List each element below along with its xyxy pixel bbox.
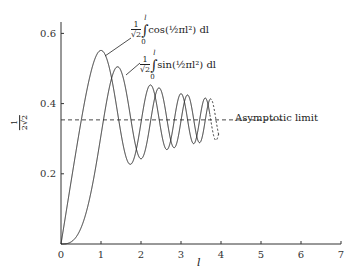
y-ticks: 0.20.40.6: [40, 28, 64, 179]
cos-label-num: 1: [131, 20, 141, 30]
sin-label-num: 1: [140, 55, 150, 65]
cos-label-den: √2: [131, 30, 141, 39]
y-tick-label: 0.2: [40, 168, 56, 179]
sin-integral-curve-extension: [210, 99, 219, 136]
asymptote-label: Asymptotic limit: [235, 112, 318, 123]
y-tick-label: 0.6: [40, 28, 56, 39]
chart-canvas: 01234567 0.20.40.6: [0, 0, 364, 275]
cos-upper-limit: l: [144, 14, 146, 22]
x-axis-label: l: [197, 256, 201, 269]
y-tick-label: 0.4: [40, 98, 56, 109]
integral-sign: ∫l0: [150, 57, 157, 73]
y-label-num: 1: [10, 115, 20, 130]
sin-lower-limit: 0: [150, 73, 154, 81]
cos-label-fraction: 1√2: [131, 20, 141, 39]
sin-curve-label: 1√2∫l0sin(½πl²) dl: [140, 55, 216, 74]
x-tick-label: 7: [338, 249, 344, 260]
sin-label-den: √2: [140, 65, 150, 74]
integral-sign: ∫l0: [141, 22, 148, 38]
sin-label-body: sin(½πl²) dl: [157, 59, 216, 70]
y-label-den: 2√2: [20, 115, 29, 130]
x-tick-label: 4: [218, 249, 224, 260]
x-tick-label: 2: [138, 249, 144, 260]
cos-lower-limit: 0: [141, 38, 145, 46]
x-tick-label: 6: [298, 249, 304, 260]
cos-leader-line: [105, 38, 131, 56]
x-tick-label: 5: [258, 249, 264, 260]
cos-curve-label: 1√2∫l0cos(½πl²) dl: [131, 20, 209, 39]
sin-upper-limit: l: [153, 49, 155, 57]
cos-label-body: cos(½πl²) dl: [148, 24, 209, 35]
x-tick-label: 3: [178, 249, 184, 260]
cos-integral-curve-extension: [210, 115, 219, 141]
x-tick-label: 1: [98, 249, 104, 260]
x-tick-label: 0: [58, 249, 64, 260]
y-axis-label: 12√2: [10, 115, 29, 130]
sin-label-fraction: 1√2: [140, 55, 150, 74]
cos-integral-curve: [61, 50, 210, 244]
sin-leader-line: [126, 63, 140, 75]
